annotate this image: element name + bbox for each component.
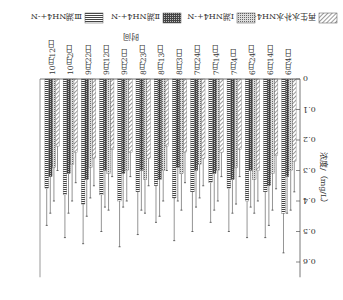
- bar: [161, 79, 165, 171]
- bar-group: [63, 79, 77, 238]
- bar: [67, 79, 71, 174]
- bar: [45, 79, 49, 189]
- x-tick-label: 6月14日: [266, 44, 275, 75]
- bar: [63, 79, 67, 195]
- bar-group: [245, 79, 259, 238]
- bar: [85, 79, 89, 180]
- legend-label: Ⅱ湖NH4+-N: [111, 12, 160, 21]
- x-tick-label: 7月24日: [193, 44, 202, 75]
- bar: [285, 79, 289, 177]
- bar: [92, 79, 96, 158]
- bar-group: [136, 79, 150, 235]
- bar: [52, 79, 56, 167]
- bar: [267, 79, 271, 186]
- legend-label: Ⅰ湖NH4+-N: [187, 12, 234, 21]
- bar: [238, 79, 242, 149]
- bar: [249, 79, 253, 171]
- bar: [198, 79, 202, 164]
- bar: [103, 79, 107, 171]
- legend-swatch: [163, 13, 181, 23]
- bar: [125, 79, 129, 171]
- bar: [143, 79, 147, 180]
- bar: [289, 79, 293, 171]
- bar: [252, 79, 256, 180]
- bar-group: [282, 79, 296, 253]
- bar: [172, 79, 176, 198]
- bar-group: [191, 79, 205, 232]
- bar: [234, 79, 238, 167]
- bar: [100, 79, 104, 195]
- legend-swatch: [85, 13, 103, 23]
- y-tick-label: 0: [303, 74, 308, 83]
- bar: [110, 79, 114, 149]
- legend-item: Ⅰ湖NH4+-N: [187, 12, 255, 23]
- x-axis-label: 时间: [123, 32, 139, 42]
- bar: [180, 79, 184, 174]
- bar: [154, 79, 158, 186]
- bar: [147, 79, 151, 158]
- bar: [256, 79, 260, 171]
- bar: [245, 79, 249, 201]
- bar: [49, 79, 53, 177]
- y-axis-label: 浓度/（mg/L）: [319, 152, 329, 207]
- bar: [183, 79, 187, 152]
- y-tick-label: 0.3: [303, 166, 316, 175]
- x-tick-label: 6月24日: [248, 44, 257, 75]
- bar: [274, 79, 278, 155]
- bar: [74, 79, 78, 152]
- bar-group: [209, 79, 223, 222]
- x-tick-label: 10月12日: [48, 39, 57, 75]
- bar-group: [45, 79, 59, 225]
- legend-label: Ⅲ湖NH4+-N: [31, 12, 82, 21]
- y-tick-label: 0.5: [303, 227, 316, 236]
- bar: [231, 79, 235, 180]
- bar-group: [172, 79, 186, 241]
- bar: [282, 79, 286, 213]
- bar: [271, 79, 275, 174]
- bar: [158, 79, 162, 180]
- bar: [118, 79, 122, 201]
- bar: [136, 79, 140, 192]
- bar: [201, 79, 205, 158]
- bar: [220, 79, 224, 152]
- bar-group: [154, 79, 168, 222]
- x-tick-label: 6月4日: [284, 48, 293, 75]
- bar-group: [118, 79, 132, 247]
- x-tick-label: 10月2日: [66, 44, 75, 75]
- bar: [263, 79, 267, 192]
- y-tick-label: 0.6: [303, 257, 316, 266]
- bar: [140, 79, 144, 171]
- legend-swatch: [237, 13, 255, 23]
- bar-group: [81, 79, 95, 244]
- bar-group: [100, 79, 114, 232]
- rotated-chart: 6月4日6月14日6月24日7月4日7月14日7月24日8月3日8月13日8月2…: [0, 0, 343, 300]
- bar-group: [227, 79, 241, 232]
- bar: [107, 79, 111, 174]
- legend-item: Ⅱ湖NH4+-N: [111, 12, 181, 23]
- x-tick-label: 7月4日: [230, 48, 239, 75]
- legend-swatch: [319, 13, 337, 23]
- bar: [292, 79, 296, 161]
- bar: [191, 79, 195, 192]
- bar: [129, 79, 133, 152]
- bar: [121, 79, 125, 174]
- x-tick-label: 8月3日: [175, 48, 184, 75]
- x-tick-label: 8月13日: [157, 44, 166, 75]
- y-tick-label: 0.1: [303, 105, 316, 114]
- plot-area: [45, 79, 296, 253]
- bar: [216, 79, 220, 171]
- bar: [227, 79, 231, 189]
- bar: [89, 79, 93, 167]
- x-tick-label: 9月12日: [102, 44, 111, 75]
- bar: [194, 79, 198, 171]
- bar: [176, 79, 180, 167]
- x-tick-label: 9月22日: [84, 44, 93, 75]
- bar: [81, 79, 85, 204]
- bar: [165, 79, 169, 146]
- bar-chart: 6月4日6月14日6月24日7月4日7月14日7月24日8月3日8月13日8月2…: [0, 0, 343, 300]
- bar: [212, 79, 216, 174]
- bar-group: [263, 79, 277, 238]
- x-tick-label: 7月14日: [212, 44, 221, 75]
- x-tick-label: 9月2日: [120, 48, 129, 75]
- legend: 再生水补水NH4+-NⅠ湖NH4+-NⅡ湖NH4+-NⅢ湖NH4+-N: [31, 12, 337, 23]
